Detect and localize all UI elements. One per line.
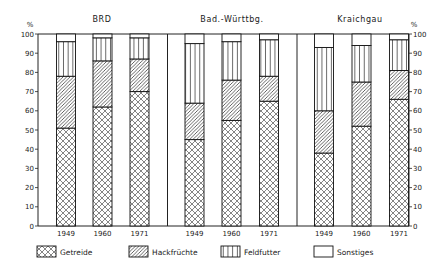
y-tick-label: 90 — [25, 50, 34, 58]
legend-swatch — [221, 246, 240, 257]
bar-segment — [93, 38, 112, 61]
x-tick-label: 1949 — [186, 230, 204, 238]
y-tick-label: 20 — [25, 184, 34, 192]
legend-label: Feldfutter — [244, 248, 281, 257]
year-labels: 194919601971194919601971194919601971 — [57, 230, 408, 238]
bar-segment — [130, 59, 149, 92]
y-tick-label: 80 — [25, 69, 34, 77]
legend-swatch — [129, 246, 148, 257]
legend-item: Feldfutter — [221, 246, 281, 257]
y-tick-label: 50 — [413, 127, 422, 135]
bar-segment — [130, 38, 149, 59]
legend: GetreideHackfrüchteFeldfutterSonstiges — [37, 246, 373, 257]
bar-1960 — [222, 34, 241, 226]
y-tick-label: 50 — [25, 127, 34, 135]
x-tick-label: 1949 — [315, 230, 333, 238]
panel-title-bad-wuerttbg: Bad.-Württbg. — [200, 15, 263, 24]
bar-segment — [185, 140, 204, 226]
x-tick-label: 1949 — [57, 230, 75, 238]
bar-segment — [185, 34, 204, 44]
y-tick-label: 90 — [413, 50, 422, 58]
left-y-axis: 0102030405060708090100% — [21, 21, 38, 231]
bars — [57, 34, 409, 226]
bar-segment — [57, 34, 76, 42]
y-tick-label: 80 — [413, 69, 422, 77]
legend-swatch — [37, 246, 56, 257]
bar-segment — [57, 128, 76, 226]
unit-label: % — [27, 21, 34, 29]
bar-segment — [352, 82, 371, 126]
bar-segment — [390, 70, 409, 99]
bar-segment — [93, 61, 112, 107]
bar-1971 — [130, 34, 149, 226]
bar-1949 — [57, 34, 76, 226]
bar-segment — [185, 44, 204, 104]
legend-label: Getreide — [60, 248, 93, 257]
bar-segment — [93, 34, 112, 38]
right-y-axis: 0102030405060708090100% — [409, 21, 426, 231]
bar-segment — [390, 99, 409, 226]
x-tick-label: 1960 — [353, 230, 371, 238]
bar-segment — [390, 34, 409, 40]
bar-segment — [260, 101, 279, 226]
x-tick-label: 1971 — [260, 230, 278, 238]
legend-item: Hackfrüchte — [129, 246, 198, 257]
legend-item: Getreide — [37, 246, 93, 257]
bar-segment — [315, 153, 334, 226]
panel-titles: BRD Bad.-Württbg. Kraichgau — [92, 15, 382, 24]
bar-segment — [57, 76, 76, 128]
y-tick-label: 20 — [413, 184, 422, 192]
x-tick-label: 1960 — [223, 230, 241, 238]
y-tick-label: 30 — [413, 165, 422, 173]
bar-segment — [352, 126, 371, 226]
unit-label: % — [411, 21, 418, 29]
bar-segment — [260, 76, 279, 101]
bar-1971 — [260, 34, 279, 226]
bar-1949 — [185, 34, 204, 226]
bar-segment — [315, 47, 334, 110]
bar-segment — [93, 107, 112, 226]
y-tick-label: 10 — [25, 203, 34, 211]
bar-segment — [130, 92, 149, 226]
y-tick-label: 70 — [413, 88, 422, 96]
legend-label: Sonstiges — [337, 248, 373, 257]
bar-1960 — [93, 34, 112, 226]
bar-segment — [222, 34, 241, 42]
bar-segment — [185, 103, 204, 139]
y-tick-label: 0 — [30, 223, 34, 231]
x-tick-label: 1971 — [390, 230, 408, 238]
legend-label: Hackfrüchte — [152, 248, 198, 257]
bar-segment — [352, 34, 371, 46]
bar-segment — [222, 120, 241, 226]
y-tick-label: 100 — [413, 31, 426, 39]
y-tick-label: 60 — [413, 107, 422, 115]
y-tick-label: 40 — [413, 146, 422, 154]
x-tick-label: 1971 — [131, 230, 149, 238]
bar-segment — [315, 34, 334, 47]
bar-segment — [57, 42, 76, 77]
bar-segment — [390, 40, 409, 71]
bar-segment — [260, 34, 279, 40]
legend-swatch — [314, 246, 333, 257]
bar-segment — [130, 34, 149, 38]
bar-1960 — [352, 34, 371, 226]
panel-title-brd: BRD — [92, 15, 111, 24]
legend-item: Sonstiges — [314, 246, 373, 257]
bar-segment — [260, 40, 279, 76]
y-tick-label: 70 — [25, 88, 34, 96]
bar-segment — [352, 46, 371, 82]
panel-title-kraichgau: Kraichgau — [337, 15, 383, 24]
bar-segment — [222, 80, 241, 120]
bar-1971 — [390, 34, 409, 226]
y-tick-label: 40 — [25, 146, 34, 154]
x-tick-label: 1960 — [94, 230, 112, 238]
y-tick-label: 100 — [21, 31, 34, 39]
bar-segment — [222, 42, 241, 80]
y-tick-label: 30 — [25, 165, 34, 173]
y-tick-label: 10 — [413, 203, 422, 211]
bar-segment — [315, 111, 334, 153]
y-tick-label: 60 — [25, 107, 34, 115]
bar-1949 — [315, 34, 334, 226]
y-tick-label: 0 — [413, 223, 417, 231]
stacked-bar-chart: BRD Bad.-Württbg. Kraichgau 010203040506… — [0, 0, 442, 276]
